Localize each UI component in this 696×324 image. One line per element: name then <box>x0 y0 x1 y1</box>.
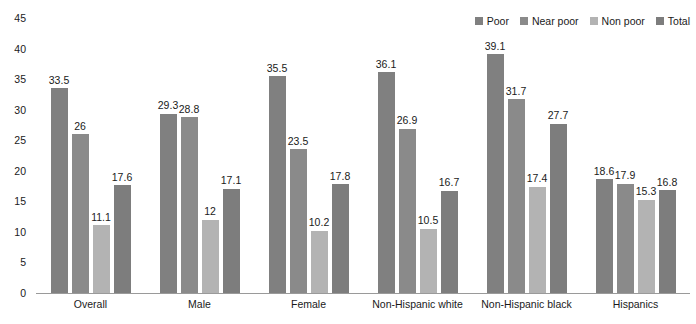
y-axis-tick-label: 15 <box>14 196 26 207</box>
bar-chart: PoorNear poorNon poorTotal 0510152025303… <box>0 0 696 324</box>
x-axis-category: Hispanics <box>581 0 690 324</box>
x-axis-category-label: Non-Hispanic black <box>472 299 581 310</box>
y-axis-tick-label: 40 <box>14 43 26 54</box>
x-axis-category: Non-Hispanic black <box>472 0 581 324</box>
x-axis-category: Overall <box>36 0 145 324</box>
x-axis-category-label: Hispanics <box>581 299 690 310</box>
y-axis: 051015202530354045 <box>0 0 34 324</box>
y-axis-tick-label: 5 <box>20 257 26 268</box>
y-axis-tick-label: 35 <box>14 74 26 85</box>
y-axis-tick-label: 25 <box>14 135 26 146</box>
y-axis-tick-label: 20 <box>14 166 26 177</box>
x-axis-category-label: Non-Hispanic white <box>363 299 472 310</box>
y-axis-tick-label: 45 <box>14 13 26 24</box>
x-axis-category: Female <box>254 0 363 324</box>
y-axis-tick-label: 0 <box>20 288 26 299</box>
y-axis-tick-label: 30 <box>14 104 26 115</box>
x-axis-category-label: Female <box>254 299 363 310</box>
y-axis-tick-label: 10 <box>14 227 26 238</box>
x-axis-category: Male <box>145 0 254 324</box>
x-axis-category-label: Overall <box>36 299 145 310</box>
x-axis-category-label: Male <box>145 299 254 310</box>
x-axis-category: Non-Hispanic white <box>363 0 472 324</box>
